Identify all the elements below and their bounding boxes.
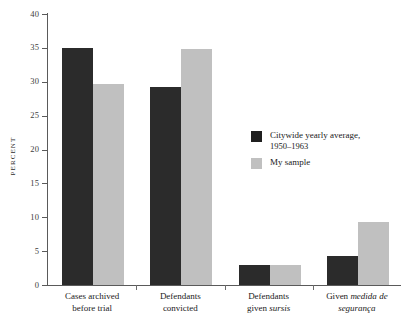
- bar-group: [150, 14, 212, 285]
- bar: [181, 49, 212, 285]
- legend-label: Citywide yearly average,: [270, 129, 360, 141]
- legend-swatch: [251, 131, 262, 142]
- y-axis-tick-mark: [42, 116, 47, 117]
- bar: [270, 265, 301, 285]
- y-axis-tick-label: 25: [9, 110, 39, 120]
- x-axis-label: Given medida desegurança: [313, 291, 401, 314]
- y-axis-tick-mark: [42, 82, 47, 83]
- y-axis-tick-mark: [42, 14, 47, 15]
- y-axis-tick-label: 5: [9, 246, 39, 256]
- y-axis-tick-mark: [42, 217, 47, 218]
- y-axis-tick-mark: [42, 48, 47, 49]
- y-axis-tick-label: 40: [9, 9, 39, 19]
- legend-swatch: [251, 158, 262, 169]
- y-axis-tick-label: 0: [9, 280, 39, 290]
- y-axis-tick-mark: [42, 150, 47, 151]
- category-divider: [225, 285, 226, 290]
- y-axis-tick-label: 35: [9, 42, 39, 52]
- y-axis-tick-label: 30: [9, 76, 39, 86]
- chart-legend: Citywide yearly average,1950–1963My samp…: [251, 129, 360, 172]
- bar-group: [62, 14, 124, 285]
- bar: [93, 84, 124, 285]
- legend-item: My sample: [251, 156, 360, 168]
- x-axis-label: Cases archivedbefore trial: [48, 291, 136, 314]
- y-axis-tick-mark: [42, 183, 47, 184]
- bar: [62, 48, 93, 285]
- y-axis-tick-mark: [42, 251, 47, 252]
- legend-label: My sample: [270, 156, 360, 168]
- bar-chart: PERCENT 4035302520151050 Cases archivedb…: [0, 0, 408, 327]
- y-axis-tick-mark: [42, 285, 47, 286]
- category-divider: [136, 285, 137, 290]
- bar: [150, 87, 181, 286]
- category-divider: [313, 285, 314, 290]
- x-axis-label: Defendantsgiven sursis: [225, 291, 313, 314]
- bar: [358, 222, 389, 285]
- x-axis-label: Defendantsconvicted: [136, 291, 224, 314]
- bar: [239, 265, 270, 285]
- legend-sublabel: 1950–1963: [270, 141, 360, 152]
- bar: [327, 256, 358, 285]
- y-axis-tick-label: 15: [9, 178, 39, 188]
- y-axis-tick-label: 10: [9, 212, 39, 222]
- legend-item: Citywide yearly average,1950–1963: [251, 129, 360, 152]
- y-axis-tick-label: 20: [9, 144, 39, 154]
